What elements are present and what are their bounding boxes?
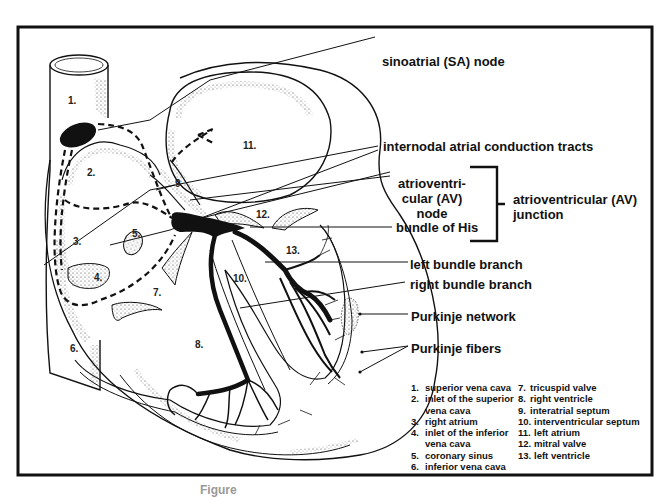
label-sa-node: sinoatrial (SA) node — [382, 54, 505, 69]
label-av-node-line2: cular (AV) — [392, 191, 472, 206]
legend-left-column: 1.superior vena cava 2.inlet of the supe… — [411, 382, 514, 472]
label-number-12: 12. — [256, 209, 270, 220]
legend-item-4-cont: vena cava — [411, 438, 514, 449]
tricuspid-valve — [112, 302, 162, 320]
legend-item-11: 11.left atrium — [518, 427, 640, 438]
legend-item-2-cont: vena cava — [411, 405, 514, 416]
label-number-5: 5. — [132, 228, 140, 239]
label-av-node: atrioventri- cular (AV) node — [392, 176, 472, 221]
label-av-junction: atrioventricular (AV) junction — [513, 192, 637, 222]
label-right-bundle-branch: right bundle branch — [410, 277, 532, 292]
legend-item-1: 1.superior vena cava — [411, 382, 514, 393]
label-number-3: 3. — [73, 236, 81, 247]
label-number-2: 2. — [87, 167, 95, 178]
legend-item-12: 12.mitral valve — [518, 438, 640, 449]
right-atrium-wall — [62, 142, 160, 180]
legend-item-4: 4.inlet of the inferior — [411, 427, 514, 438]
heart-outer-wall — [45, 62, 438, 459]
label-purkinje-fibers: Purkinje fibers — [411, 341, 501, 356]
label-av-node-line3: node — [392, 206, 472, 221]
legend-item-9: 9.interatrial septum — [518, 405, 640, 416]
left-atrium — [166, 72, 331, 203]
legend-item-3: 3.right atrium — [411, 416, 514, 427]
right-bundle-branch — [198, 235, 248, 394]
label-number-7: 7. — [153, 287, 161, 298]
label-number-6: 6. — [70, 343, 78, 354]
legend-item-10: 10.interventricular septum — [518, 416, 640, 427]
legend-item-8: 8.right ventricle — [518, 393, 640, 404]
legend-item-2: 2.inlet of the superior — [411, 393, 514, 404]
legend-item-7: 7.tricuspid valve — [518, 382, 640, 393]
label-purkinje-network: Purkinje network — [411, 309, 516, 324]
sa-node — [56, 118, 99, 153]
label-number-13: 13. — [286, 245, 300, 256]
label-number-8: 8. — [195, 339, 203, 350]
purkinje-network-area — [341, 298, 358, 335]
legend-item-5: 5.coronary sinus — [411, 450, 514, 461]
label-av-node-line1: atrioventri- — [392, 176, 472, 191]
legend-item-13: 13.left ventricle — [518, 450, 640, 461]
figure-caption-partial: Figure — [200, 483, 237, 497]
label-av-junction-line1: atrioventricular (AV) — [513, 192, 637, 207]
legend-right-column: 7.tricuspid valve 8.right ventricle 9.in… — [518, 382, 640, 461]
label-bundle-of-his: bundle of His — [396, 220, 478, 235]
legend-item-6: 6.inferior vena cava — [411, 461, 514, 472]
label-number-11: 11. — [243, 140, 256, 151]
label-av-junction-line2: junction — [513, 207, 637, 222]
label-internodal-tracts: internodal atrial conduction tracts — [383, 139, 593, 154]
label-number-1: 1. — [68, 95, 76, 106]
left-ventricle-wall — [225, 225, 345, 379]
label-number-10: 10. — [233, 273, 247, 284]
label-number-4: 4. — [94, 272, 102, 283]
right-ventricle-wall — [75, 270, 280, 426]
label-number-9: 9 — [175, 178, 181, 189]
ivc-inlet — [68, 264, 109, 289]
label-left-bundle-branch: left bundle branch — [410, 257, 523, 272]
